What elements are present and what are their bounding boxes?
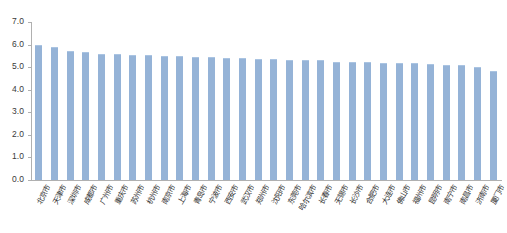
bar [396, 63, 403, 180]
bar [145, 55, 152, 180]
y-axis-tick-label: 1.0 [12, 151, 24, 161]
bar [474, 67, 481, 180]
x-axis-tick-label: 杭州市 [142, 183, 162, 206]
x-axis-tick-label: 成都市 [80, 183, 100, 206]
x-axis-tick-label: 大连市 [377, 183, 397, 206]
x-axis-tick-label: 深圳市 [64, 183, 84, 206]
bar [67, 51, 74, 180]
x-axis-tick-label: 广州市 [95, 183, 115, 206]
y-axis-tick-label: 0.0 [12, 174, 24, 184]
bar [364, 62, 371, 181]
bar [458, 65, 465, 180]
y-axis-tick-label: 6.0 [12, 39, 24, 49]
bar [82, 52, 89, 180]
x-axis-tick-label: 无锡市 [330, 183, 350, 206]
bar [98, 54, 105, 180]
y-axis-tick-label: 5.0 [12, 61, 24, 71]
bar [51, 47, 58, 180]
x-axis-labels: 北京市天津市深圳市成都市广州市重庆市苏州市杭州市南京市上海市青岛市宁波市西安市武… [31, 181, 502, 233]
x-axis-tick-label: 南京市 [158, 183, 178, 206]
x-axis-tick-label: 天津市 [48, 183, 68, 206]
y-axis-tick-label: 4.0 [12, 84, 24, 94]
bar [411, 63, 418, 180]
x-axis-tick-label: 长春市 [315, 183, 335, 206]
x-axis-tick-label: 郑州市 [252, 183, 272, 206]
bar [208, 57, 215, 180]
x-axis-tick-label: 济南市 [471, 183, 491, 206]
bar [161, 56, 168, 180]
bar [114, 54, 121, 180]
y-axis-tick-label: 3.0 [12, 106, 24, 116]
x-axis-tick-label: 南昌市 [456, 183, 476, 206]
bar [223, 58, 230, 180]
bar [192, 57, 199, 180]
bar [255, 59, 262, 180]
x-axis-tick-label: 苏州市 [127, 183, 147, 206]
x-axis-tick-label: 福州市 [409, 183, 429, 206]
bar [176, 56, 183, 180]
bar [129, 55, 136, 180]
bar [302, 60, 309, 180]
bar [490, 71, 497, 180]
x-axis-tick-label: 青岛市 [189, 183, 209, 206]
x-axis-tick-label: 厦门市 [487, 183, 507, 206]
x-axis-tick-label: 宁波市 [205, 183, 225, 206]
bar [239, 58, 246, 180]
x-axis-tick-label: 重庆市 [111, 183, 131, 206]
x-axis-tick-label: 上海市 [174, 183, 194, 206]
bar [333, 62, 340, 181]
x-axis-tick-label: 长沙市 [346, 183, 366, 206]
x-axis-tick-label: 合肥市 [362, 183, 382, 206]
x-axis-tick-label: 佛山市 [393, 183, 413, 206]
plot-area [31, 22, 501, 180]
bar [286, 60, 293, 180]
y-axis-tick-label: 7.0 [12, 16, 24, 26]
bar [349, 62, 356, 181]
bar [380, 63, 387, 180]
bar [35, 45, 42, 180]
x-axis-tick-label: 北京市 [33, 183, 53, 206]
bar [270, 59, 277, 180]
x-axis-tick-label: 武汉市 [236, 183, 256, 206]
x-axis-tick-label: 西安市 [221, 183, 241, 206]
bar [427, 64, 434, 180]
bar [317, 60, 324, 180]
x-axis-tick-label: 沈阳市 [268, 183, 288, 206]
bar-chart: 0.01.02.03.04.05.06.07.0 北京市天津市深圳市成都市广州市… [0, 0, 507, 233]
x-axis-tick-label: 昆明市 [424, 183, 444, 206]
bar [443, 65, 450, 180]
y-axis-tick-label: 2.0 [12, 129, 24, 139]
x-axis-tick-label: 南宁市 [440, 183, 460, 206]
